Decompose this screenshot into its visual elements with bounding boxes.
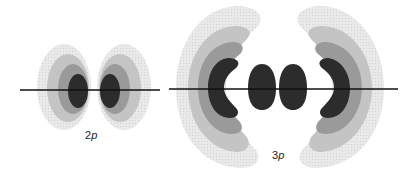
label-2p-letter: p xyxy=(91,129,97,141)
2p-left-lobe xyxy=(37,44,91,130)
orbital-3p xyxy=(176,6,384,168)
3p-right-lobe xyxy=(297,6,384,168)
label-3p-letter: p xyxy=(278,149,284,161)
orbital-diagram xyxy=(0,0,415,174)
label-3p: 3p xyxy=(272,149,284,161)
3p-inner-right-lobe xyxy=(279,64,307,110)
label-2p: 2p xyxy=(85,129,97,141)
3p-left-lobe xyxy=(176,6,261,168)
orbital-2p xyxy=(37,44,151,130)
3p-inner-left-lobe xyxy=(248,64,276,110)
2p-right-lobe xyxy=(97,44,151,130)
